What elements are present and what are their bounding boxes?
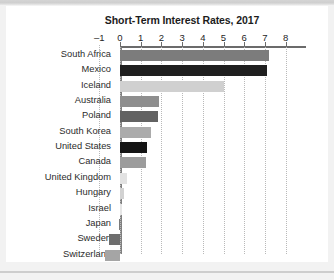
x-tick-mark	[141, 42, 142, 46]
chart-row: Canada	[6, 155, 328, 170]
category-label: Switzerland	[6, 249, 111, 259]
x-tick-mark	[203, 42, 204, 46]
page-container: Short-Term Interest Rates, 2017 –1012345…	[0, 0, 334, 280]
chart-figure: Short-Term Interest Rates, 2017 –1012345…	[6, 6, 328, 262]
category-label: United Kingdom	[6, 172, 111, 182]
chart-row: Australia	[6, 94, 328, 109]
chart-row: Iceland	[6, 79, 328, 94]
bar	[120, 188, 124, 199]
category-label: Israel	[6, 203, 111, 213]
category-label: South Korea	[6, 126, 111, 136]
category-label: Poland	[6, 110, 111, 120]
chart-row: Sweden	[6, 232, 328, 247]
x-tick-mark	[120, 42, 121, 46]
category-label: Japan	[6, 218, 111, 228]
chart-row: Switzerland	[6, 248, 328, 263]
category-label: Hungary	[6, 187, 111, 197]
chart-row: Israel	[6, 202, 328, 217]
bar	[119, 219, 120, 230]
bar	[120, 173, 127, 184]
bar	[120, 142, 147, 153]
x-tick-mark	[161, 42, 162, 46]
chart-row: Mexico	[6, 63, 328, 78]
category-label: Canada	[6, 156, 111, 166]
bar	[120, 204, 122, 215]
bar	[105, 250, 120, 261]
page-bottom-band	[0, 268, 334, 280]
chart-row: United Kingdom	[6, 171, 328, 186]
x-tick-mark	[182, 42, 183, 46]
chart-row: South Korea	[6, 125, 328, 140]
category-label: Australia	[6, 95, 111, 105]
chart-row: Hungary	[6, 186, 328, 201]
bar	[120, 50, 269, 61]
bar	[120, 65, 267, 76]
plot-area: –1012345678South AfricaMexicoIcelandAust…	[6, 6, 328, 262]
chart-row: Poland	[6, 109, 328, 124]
bar	[109, 234, 120, 245]
category-label: Iceland	[6, 80, 111, 90]
x-tick-mark	[224, 42, 225, 46]
page-top-band	[0, 0, 334, 5]
chart-row: South Africa	[6, 48, 328, 63]
category-label: Sweden	[6, 233, 111, 243]
category-label: South Africa	[6, 49, 111, 59]
category-label: Mexico	[6, 64, 111, 74]
x-tick-mark	[244, 42, 245, 46]
x-tick-mark	[265, 42, 266, 46]
bar	[120, 157, 146, 168]
x-tick-label: –1	[94, 32, 105, 43]
bar	[120, 127, 151, 138]
category-label: United States	[6, 141, 111, 151]
bar	[120, 111, 158, 122]
chart-row: United States	[6, 140, 328, 155]
chart-row: Japan	[6, 217, 328, 232]
bar	[120, 81, 224, 92]
x-tick-mark	[286, 42, 287, 46]
bar	[120, 96, 159, 107]
